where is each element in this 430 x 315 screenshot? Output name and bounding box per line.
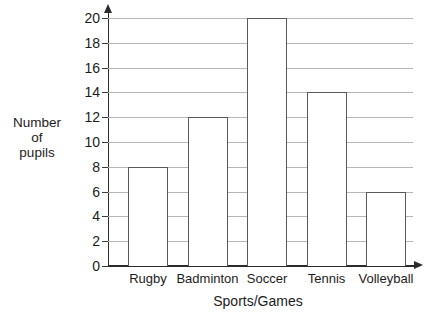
y-axis-tick-label: 12 [70, 110, 100, 124]
y-axis-tick-label: 10 [70, 135, 100, 149]
plot-area [108, 18, 418, 266]
y-axis-tick-mark [102, 167, 108, 168]
y-axis-tick-label: 20 [70, 11, 100, 25]
x-axis-title: Sports/Games [108, 293, 408, 309]
y-axis-tick-label: 18 [70, 36, 100, 50]
y-axis-tick-mark [102, 241, 108, 242]
bar [307, 92, 347, 266]
y-axis-title-line-3: pupils [2, 145, 72, 160]
bar-chart: Number of pupils 02468101214161820 Rugby… [0, 0, 430, 315]
bar [188, 117, 228, 266]
y-axis-tick-mark [102, 117, 108, 118]
y-axis-tick-label: 2 [70, 234, 100, 248]
y-axis-tick-label: 4 [70, 209, 100, 223]
y-axis-title-line-1: Number [2, 115, 72, 130]
y-axis-title-line-2: of [2, 130, 72, 145]
x-axis-category-label: Volleyball [341, 272, 430, 286]
y-axis-tick-mark [102, 142, 108, 143]
y-axis-tick-mark [102, 216, 108, 217]
bar [247, 18, 287, 266]
y-axis-tick-mark [102, 68, 108, 69]
bar [128, 167, 168, 266]
y-axis-tick-mark [102, 18, 108, 19]
y-axis-tick-label: 14 [70, 85, 100, 99]
y-axis-tick-mark [102, 192, 108, 193]
y-axis-tick-label: 8 [70, 160, 100, 174]
y-axis-tick-label: 16 [70, 61, 100, 75]
y-axis-title: Number of pupils [2, 115, 72, 160]
bar [366, 192, 406, 266]
y-axis-tick-label: 6 [70, 185, 100, 199]
y-axis-arrowhead [104, 4, 112, 13]
y-axis-tick-mark [102, 266, 108, 267]
y-axis-tick-label: 0 [70, 259, 100, 273]
y-axis-tick-mark [102, 92, 108, 93]
y-axis-tick-mark [102, 43, 108, 44]
